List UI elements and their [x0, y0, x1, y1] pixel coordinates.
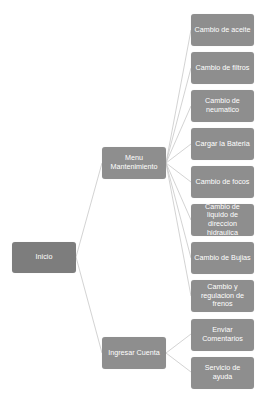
node-label: Cambio de liquido de direccion hidraulic…	[194, 203, 251, 237]
node-cambio-de-aceite[interactable]: Cambio de aceite	[191, 14, 254, 46]
node-label: Inicio	[36, 253, 53, 262]
node-cambio-de-bujias[interactable]: Cambio de Bujias	[191, 242, 254, 274]
node-label: Cambio de aceite	[195, 26, 251, 35]
node-label: Cambio de Bujias	[194, 254, 250, 263]
node-inicio[interactable]: Inicio	[12, 242, 76, 273]
node-enviar-comentarios[interactable]: Enviar Comentarios	[191, 319, 254, 351]
node-label: Menu Mantenimiento	[105, 154, 163, 171]
node-cambio-de-liquido-de-direccion-hidraulica[interactable]: Cambio de liquido de direccion hidraulic…	[191, 204, 254, 236]
node-ingresar-cuenta[interactable]: Ingresar Cuenta	[102, 337, 166, 369]
node-label: Cargar la Bateria	[195, 140, 249, 149]
node-label: Servicio de ayuda	[194, 364, 251, 381]
node-label: Enviar Comentarios	[194, 326, 251, 343]
tree-diagram: Inicio Menu Mantenimiento Ingresar Cuent…	[0, 0, 268, 401]
node-cargar-la-bateria[interactable]: Cargar la Bateria	[191, 128, 254, 160]
node-menu-mantenimiento[interactable]: Menu Mantenimiento	[102, 147, 166, 179]
node-label: Cambio de neumatico	[194, 97, 251, 114]
node-label: Cambio y regulacion de frenos	[194, 283, 251, 309]
connector-root-mantenimiento	[76, 163, 102, 257]
node-cambio-de-focos[interactable]: Cambio de focos	[191, 166, 254, 198]
node-servicio-de-ayuda[interactable]: Servicio de ayuda	[191, 357, 254, 389]
node-label: Cambio de focos	[196, 178, 250, 187]
node-label: Cambio de filtros	[196, 64, 250, 73]
node-label: Ingresar Cuenta	[108, 349, 160, 358]
node-cambio-de-neumatico[interactable]: Cambio de neumatico	[191, 90, 254, 122]
connector-root-cuenta	[76, 257, 102, 353]
node-cambio-de-filtros[interactable]: Cambio de filtros	[191, 52, 254, 84]
node-cambio-y-regulacion-de-frenos[interactable]: Cambio y regulacion de frenos	[191, 280, 254, 312]
